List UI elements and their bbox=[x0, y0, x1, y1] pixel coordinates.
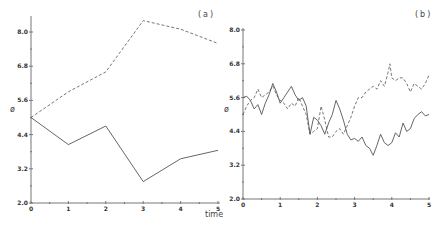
x-tick-label: 1 bbox=[278, 201, 282, 208]
y-tick-label: 4.4 bbox=[17, 131, 28, 138]
y-tick-label: 3.2 bbox=[229, 161, 240, 168]
solid-series-line-b bbox=[243, 84, 429, 156]
solid-series-line-a bbox=[31, 118, 218, 182]
figure-canvas: 2.03.24.45.66.88.0 012345 (a) ø time 2.0… bbox=[0, 0, 441, 226]
y-tick-label: 8.0 bbox=[17, 28, 28, 35]
y-tick-label: 8.0 bbox=[229, 26, 240, 33]
chart-panel-b: 2.03.24.45.66.88.0 012345 (b) ø bbox=[224, 10, 432, 208]
panel-label-a: (a) bbox=[198, 10, 215, 19]
chart-panel-a: 2.03.24.45.66.88.0 012345 (a) ø time bbox=[10, 10, 223, 219]
panel-label-b: (b) bbox=[415, 10, 432, 19]
y-axis-label-b: ø bbox=[224, 105, 229, 114]
y-tick-label: 5.6 bbox=[229, 94, 240, 101]
x-axis-label-a: time bbox=[205, 210, 223, 219]
y-tick-label: 2.0 bbox=[229, 195, 240, 202]
y-tick-label: 5.6 bbox=[17, 96, 28, 103]
y-tick-label: 3.2 bbox=[17, 165, 28, 172]
x-tick-label: 3 bbox=[141, 205, 145, 212]
x-tick-label: 3 bbox=[353, 201, 357, 208]
dashed-series-line-a bbox=[31, 21, 218, 118]
y-tick-label: 2.0 bbox=[17, 199, 28, 206]
x-tick-label: 4 bbox=[179, 205, 183, 212]
y-tick-label: 4.4 bbox=[229, 127, 240, 134]
y-tick-label: 6.8 bbox=[229, 60, 240, 67]
x-tick-label: 1 bbox=[66, 205, 70, 212]
x-tick-label: 0 bbox=[241, 201, 245, 208]
x-tick-label: 2 bbox=[315, 201, 319, 208]
x-tick-label: 4 bbox=[390, 201, 394, 208]
x-tick-label: 5 bbox=[427, 201, 431, 208]
x-tick-label: 0 bbox=[29, 205, 33, 212]
y-tick-label: 6.8 bbox=[17, 62, 28, 69]
y-axis-label-a: ø bbox=[10, 105, 15, 114]
x-tick-label: 2 bbox=[104, 205, 108, 212]
